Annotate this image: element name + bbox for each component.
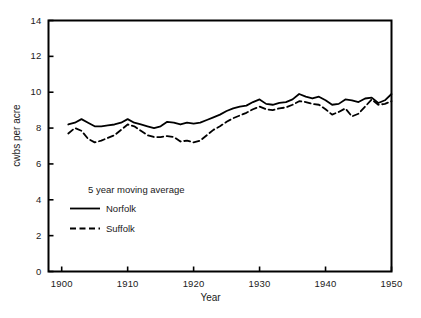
- x-tick-label: 1920: [173, 278, 215, 289]
- legend-label-norfolk: Norfolk: [106, 203, 136, 214]
- x-tick-label: 1940: [305, 278, 347, 289]
- series-line-norfolk: [68, 94, 391, 128]
- chart-figure: 02468101214 190019101920193019401950 cwb…: [0, 0, 421, 318]
- y-tick-label: 0: [16, 266, 42, 277]
- y-tick-label: 2: [16, 230, 42, 241]
- y-tick-label: 12: [16, 50, 42, 61]
- legend-label-suffolk: Suffolk: [106, 223, 135, 234]
- y-axis-title: cwbs per acre: [11, 91, 22, 181]
- x-axis-title: Year: [0, 292, 421, 303]
- plot-frame: [49, 21, 392, 272]
- x-tick-label: 1910: [107, 278, 149, 289]
- legend-title: 5 year moving average: [88, 184, 185, 195]
- y-tick-label: 4: [16, 194, 42, 205]
- x-tick-label: 1900: [41, 278, 83, 289]
- plot-area: [0, 0, 421, 318]
- series-line-suffolk: [68, 99, 391, 142]
- y-tick-label: 14: [16, 15, 42, 26]
- x-tick-label: 1930: [239, 278, 281, 289]
- x-tick-label: 1950: [371, 278, 413, 289]
